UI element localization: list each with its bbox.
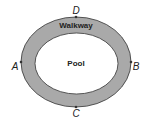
point-b-label: B [133,61,140,72]
pool-label: Pool [67,59,84,68]
pool-walkway-diagram: D Walkway Pool A B C [0,0,143,119]
point-a-label: A [11,61,19,72]
point-d-marker [75,16,78,19]
walkway-label: Walkway [59,21,93,30]
point-a-marker [20,61,23,64]
point-c-label: C [72,108,80,119]
point-d-label: D [72,5,79,16]
